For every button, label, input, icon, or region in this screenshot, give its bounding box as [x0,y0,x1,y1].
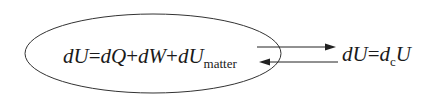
plus-sign: + [166,44,178,68]
term-dW: dW [138,44,166,68]
equals-sign: = [368,42,380,66]
term-U: U [396,42,411,66]
equals-sign: = [89,44,101,68]
right-equation: dU=dcU [342,44,411,68]
arrow-right [257,44,336,51]
arrow-left [259,59,338,66]
energy-balance-diagram: dU=dQ+dW+dUmatter dU=dcU [0,0,432,103]
left-equation: dU=dQ+dW+dUmatter [63,46,237,70]
subscript-matter: matter [204,56,237,71]
term-dU-matter: dU [178,44,204,68]
term-d: d [380,42,391,66]
term-dU: dU [342,42,368,66]
term-dQ: dQ [101,44,127,68]
plus-sign: + [126,44,138,68]
term-dU: dU [63,44,89,68]
